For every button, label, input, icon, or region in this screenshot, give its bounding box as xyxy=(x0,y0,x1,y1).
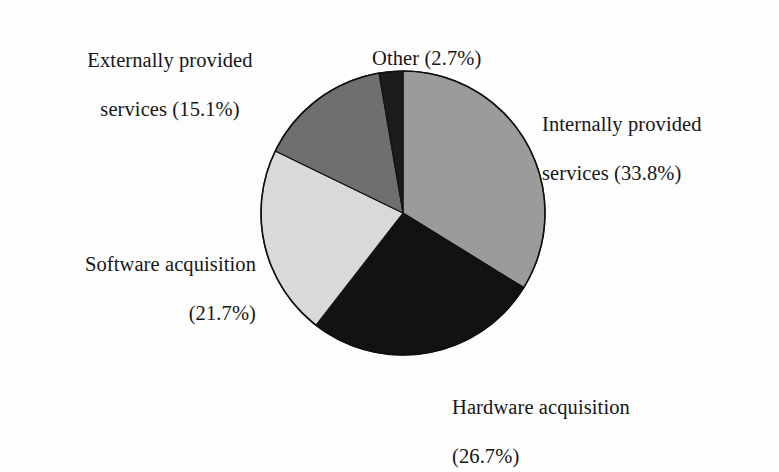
pie-chart-graphic xyxy=(258,68,548,358)
label-line-1: Other (2.7%) xyxy=(372,46,572,70)
label-line-2: services (15.1%) xyxy=(46,97,294,121)
label-line-2: services (33.8%) xyxy=(542,161,778,185)
label-line-2: (26.7%) xyxy=(452,444,732,468)
pie-slices xyxy=(261,71,545,355)
slice-label-hardware-acquisition: Hardware acquisition (26.7%) xyxy=(452,371,732,472)
slice-label-externally-provided-services: Externally provided services (15.1%) xyxy=(46,24,294,145)
slice-label-internally-provided-services: Internally provided services (33.8%) xyxy=(542,88,778,209)
pie-svg xyxy=(258,68,548,358)
label-line-1: Internally provided xyxy=(542,112,778,136)
label-line-1: Software acquisition xyxy=(8,252,256,276)
slice-label-software-acquisition: Software acquisition (21.7%) xyxy=(8,228,256,349)
label-line-2: (21.7%) xyxy=(8,301,256,325)
label-line-1: Externally provided xyxy=(46,48,294,72)
slice-label-other: Other (2.7%) xyxy=(372,22,572,95)
label-line-1: Hardware acquisition xyxy=(452,395,732,419)
